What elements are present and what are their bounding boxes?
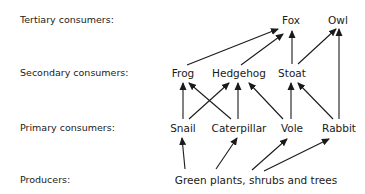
node-hedgehog: Hedgehog — [212, 67, 266, 79]
level-label-tertiary: Tertiary consumers: — [20, 14, 114, 26]
node-fox: Fox — [282, 14, 300, 26]
node-snail: Snail — [170, 122, 196, 134]
arrow-plants-to-rabbit — [264, 139, 329, 171]
arrow-vole-to-hedgehog — [249, 83, 283, 119]
node-rabbit: Rabbit — [322, 122, 356, 134]
node-owl: Owl — [328, 14, 348, 26]
node-frog: Frog — [172, 67, 194, 79]
arrow-rabbit-to-stoat — [298, 83, 333, 119]
node-vole: Vole — [281, 122, 303, 134]
arrow-hedgehog-to-fox — [241, 34, 283, 65]
node-producers-plants: Green plants, shrubs and trees — [175, 174, 337, 186]
level-label-producers: Producers: — [20, 174, 70, 186]
arrow-stoat-to-owl — [298, 29, 336, 64]
level-label-primary: Primary consumers: — [20, 122, 115, 134]
node-stoat: Stoat — [278, 67, 306, 79]
arrow-plants-to-caterpillar — [216, 138, 237, 169]
arrow-frog-to-fox — [187, 29, 278, 65]
arrow-plants-to-snail — [182, 138, 185, 169]
node-caterpillar: Caterpillar — [212, 122, 267, 134]
level-label-secondary: Secondary consumers: — [20, 67, 129, 79]
food-web-arrows — [0, 0, 365, 194]
arrow-plants-to-vole — [252, 139, 287, 170]
